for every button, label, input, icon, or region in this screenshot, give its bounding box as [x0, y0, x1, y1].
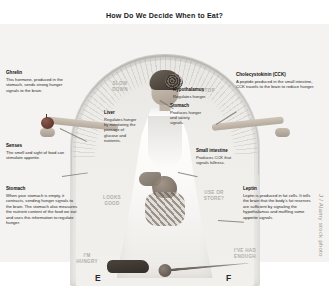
callout-hypothalamus: Hypothalamus Regulates hunger. [173, 87, 229, 99]
callout-senses-body: The smell and sight of food can stimulat… [6, 150, 72, 161]
gauge-zone-ive-had-enough: I'VE HAD ENOUGH [229, 248, 261, 260]
gauge-label-full: F [226, 273, 231, 283]
callout-ghrelin-title: Ghrelin [6, 70, 76, 76]
left-hand [40, 128, 55, 137]
callout-ghrelin-body: This hormone, produced in the stomach, s… [6, 77, 76, 94]
callout-senses-title: Senses [6, 143, 72, 149]
callout-leptin-body: Leptin is produced in fat cells. It tell… [243, 193, 317, 221]
page-title: How Do We Decide When to Eat? [0, 11, 329, 20]
callout-small-intestine-body: Produces CCK that signals fullness. [196, 155, 240, 166]
gauge-base-shadow [107, 260, 149, 273]
callout-stomach-inner: Stomach Produces hunger and satiety sign… [170, 103, 204, 126]
callout-small-intestine-title: Small intestine [196, 148, 240, 154]
callout-liver-title: Liver [104, 110, 138, 116]
apple-stem-icon [46, 114, 48, 118]
callout-liver: Liver Regulates hunger by monitoring the… [104, 110, 138, 144]
callout-leptin: Leptin Leptin is produced in fat cells. … [243, 186, 317, 220]
gauge-label-empty: E [95, 273, 101, 283]
callout-stomach-outer-body: When your stomach is empty, it contracts… [6, 193, 78, 226]
gauge-needle-pivot [158, 264, 171, 277]
callout-stomach-inner-body: Produces hunger and satiety signals. [170, 110, 204, 126]
callout-stomach-outer-title: Stomach [6, 186, 78, 192]
watermark-text: J / Alamy stock photo [318, 194, 325, 257]
callout-cck-title: Cholecystokinin (CCK) [236, 72, 322, 78]
callout-stomach-outer: Stomach When your stomach is empty, it c… [6, 186, 78, 226]
callout-ghrelin: Ghrelin This hormone, produced in the st… [6, 70, 76, 93]
right-hand [275, 128, 290, 137]
callout-hypothalamus-body: Regulates hunger. [173, 94, 229, 99]
apple-icon [41, 117, 54, 129]
callout-cholecystokinin: Cholecystokinin (CCK) A peptide produced… [236, 72, 322, 90]
callout-senses: Senses The smell and sight of food can s… [6, 143, 72, 161]
callout-small-intestine: Small intestine Produces CCK that signal… [196, 148, 240, 165]
gauge-zone-im-hungry: I'M HUNGRY [72, 253, 102, 265]
callout-cck-body: A peptide produced in the small intestin… [236, 79, 322, 90]
infographic-poster: How Do We Decide When to Eat? SLOW DOWN … [0, 0, 329, 290]
callout-leptin-title: Leptin [243, 186, 317, 192]
callout-liver-body: Regulates hunger by monitoring the passa… [104, 117, 138, 144]
callout-stomach-inner-title: Stomach [170, 103, 204, 109]
callout-hypothalamus-title: Hypothalamus [173, 87, 229, 93]
small-intestine-organ-icon [145, 192, 185, 226]
